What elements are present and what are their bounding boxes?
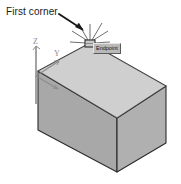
ucs-axis-label-y: Y xyxy=(54,50,60,58)
arrow-pointer-icon xyxy=(59,14,84,31)
cad-illustration-screenshot: First corner Endpoint Z Y xyxy=(0,0,181,184)
3d-box-figure xyxy=(0,0,181,184)
endpoint-snap-tooltip: Endpoint xyxy=(93,43,121,54)
ucs-axis-label-z: Z xyxy=(33,38,38,46)
first-corner-annotation: First corner xyxy=(6,6,58,18)
